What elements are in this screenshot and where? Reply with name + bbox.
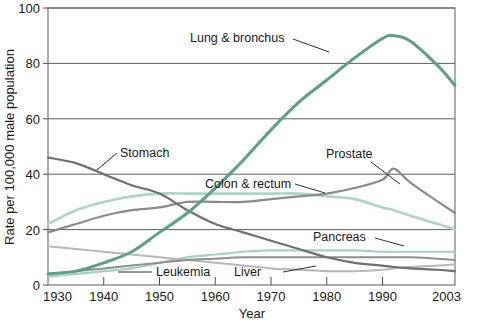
series-line-colon-rectum — [48, 193, 455, 229]
leader-line-colon-rectum — [295, 184, 325, 193]
x-tick-label-1960: 1960 — [201, 289, 230, 304]
series-label-lung-bronchus: Lung & bronchus — [190, 31, 285, 45]
y-tick-label-60: 60 — [26, 112, 40, 127]
leader-line-stomach — [97, 153, 117, 170]
chart-canvas: 020406080100 193019401950196019701980199… — [0, 0, 477, 324]
x-axis-title: Year — [239, 306, 266, 321]
series-label-stomach: Stomach — [120, 146, 169, 160]
y-tick-label-0: 0 — [33, 278, 40, 293]
series-label-leukemia: Leukemia — [156, 265, 210, 279]
series-label-pancreas: Pancreas — [313, 230, 366, 244]
x-tick-label-1990: 1990 — [368, 289, 397, 304]
series-line-lung-bronchus — [48, 35, 455, 274]
x-tick-label-1940: 1940 — [89, 289, 118, 304]
y-tick-label-20: 20 — [26, 223, 40, 238]
y-tick-label-40: 40 — [26, 167, 40, 182]
leader-line-lung-bronchus — [293, 39, 329, 52]
y-tick-label-80: 80 — [26, 56, 40, 71]
x-axis-tick-labels: 19301940195019601970198019902003 — [43, 289, 461, 304]
x-tick-label-1930: 1930 — [43, 289, 72, 304]
series-label-liver: Liver — [234, 265, 261, 279]
y-axis-title: Rate per 100,000 male population — [2, 49, 17, 245]
leader-line-prostate — [371, 162, 400, 184]
cancer-death-rate-chart: 020406080100 193019401950196019701980199… — [0, 0, 477, 324]
x-tick-label-2003: 2003 — [432, 289, 461, 304]
y-tick-label-100: 100 — [18, 1, 40, 16]
series-label-colon-rectum: Colon & rectum — [205, 177, 291, 191]
leader-line-pancreas — [375, 238, 404, 246]
data-series-lines — [48, 35, 455, 276]
x-tick-label-1950: 1950 — [145, 289, 174, 304]
x-tick-label-1970: 1970 — [257, 289, 286, 304]
x-tick-label-1980: 1980 — [312, 289, 341, 304]
y-axis-tick-labels: 020406080100 — [18, 1, 40, 293]
series-label-prostate: Prostate — [326, 147, 373, 161]
series-annotations: Lung & bronchusStomachColon & rectumPros… — [97, 31, 404, 279]
